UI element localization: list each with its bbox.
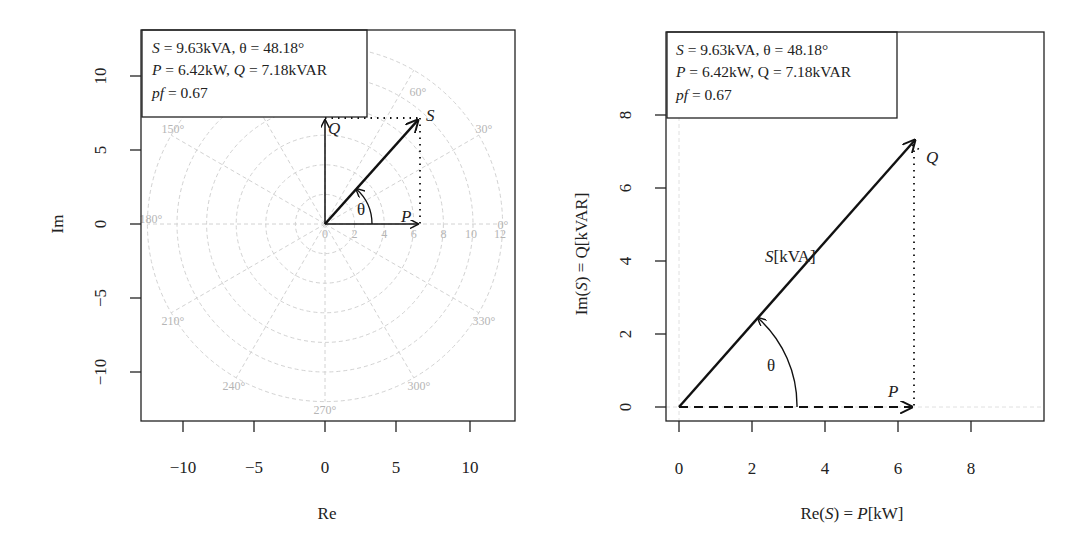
left-y-axis	[130, 76, 141, 372]
right-y-axis-title: Im(S) = Q[kVAR]	[572, 193, 591, 316]
x-tick-label: −10	[170, 458, 197, 477]
y-tick-label: 8	[616, 111, 635, 120]
q-label: Q	[926, 148, 938, 167]
right-x-axis	[679, 421, 971, 432]
radial-label-0: 0	[322, 227, 328, 241]
figure: 0 2 4 6 8 10 12 0° 30° 60° 150° 180° 210…	[0, 0, 1087, 548]
polar-radial-labels: 0 2 4 6 8 10 12	[322, 227, 506, 241]
y-tick-label: 5	[91, 146, 110, 155]
angle-label-30: 30°	[476, 122, 493, 136]
p-label: P	[887, 382, 898, 401]
radial-label-4: 4	[381, 227, 387, 241]
angle-label-60: 60°	[410, 85, 427, 99]
radial-label-8: 8	[440, 227, 446, 241]
x-tick-label: 8	[967, 459, 976, 478]
x-tick-label: 4	[821, 459, 830, 478]
angle-label-180: 180°	[140, 212, 163, 226]
x-tick-label: 5	[392, 458, 401, 477]
y-tick-label: 10	[91, 68, 110, 85]
left-legend: S = 9.63kVA, θ = 48.18° P = 6.42kW, Q = …	[142, 30, 367, 117]
right-chart: Q P θ S[kVA] S = 9.63kVA, θ = 48.18° P =…	[572, 32, 1044, 523]
y-tick-label: 2	[616, 330, 635, 339]
x-tick-label: 0	[321, 458, 330, 477]
x-tick-label: 0	[675, 459, 684, 478]
y-tick-label: 6	[616, 184, 635, 193]
q-projection-top	[912, 145, 920, 150]
radial-label-6: 6	[411, 227, 417, 241]
legend-line-3: pf = 0.67	[151, 84, 208, 101]
x-tick-label: 2	[748, 459, 757, 478]
theta-label: θ	[767, 356, 775, 375]
y-tick-label: 0	[616, 403, 635, 412]
angle-label-300: 300°	[408, 379, 431, 393]
right-legend: S = 9.63kVA, θ = 48.18° P = 6.42kW, Q = …	[667, 32, 897, 118]
angle-label-150: 150°	[162, 122, 185, 136]
left-y-axis-title: Im	[48, 215, 67, 234]
angle-label-210: 210°	[162, 314, 185, 328]
theta-label: θ	[357, 200, 365, 219]
angle-label-270: 270°	[314, 403, 337, 417]
y-tick-label: −10	[91, 359, 110, 386]
angle-label-240: 240°	[223, 379, 246, 393]
legend-line-1: S = 9.63kVA, θ = 48.18°	[152, 39, 304, 56]
p-label: P	[400, 207, 411, 226]
s-vector	[679, 140, 915, 407]
y-tick-label: 0	[91, 220, 110, 229]
left-x-axis-title: Re	[318, 504, 337, 523]
legend-line-3: pf = 0.67	[675, 86, 732, 103]
x-tick-label: −5	[245, 458, 263, 477]
radial-label-10: 10	[465, 227, 477, 241]
theta-arc	[758, 318, 797, 407]
q-label: Q	[328, 119, 340, 138]
legend-line-1: S = 9.63kVA, θ = 48.18°	[676, 41, 828, 58]
left-x-axis	[183, 421, 470, 432]
y-tick-label: 4	[616, 256, 635, 265]
s-label: S	[426, 106, 435, 125]
x-tick-label: 6	[894, 459, 903, 478]
legend-line-2: P = 6.42kW, Q = 7.18kVAR	[675, 63, 852, 80]
angle-label-330: 330°	[473, 314, 496, 328]
radial-label-2: 2	[352, 227, 358, 241]
x-tick-label: 10	[462, 458, 479, 477]
angle-label-0: 0°	[498, 218, 509, 232]
left-chart: 0 2 4 6 8 10 12 0° 30° 60° 150° 180° 210…	[48, 30, 515, 523]
legend-line-2: P = 6.42kW, Q = 7.18kVAR	[151, 61, 328, 78]
right-x-axis-title: Re(S) = P[kW]	[800, 504, 903, 523]
s-kva-label: S[kVA]	[765, 247, 816, 266]
y-tick-label: −5	[91, 289, 110, 307]
right-y-axis	[655, 115, 666, 407]
